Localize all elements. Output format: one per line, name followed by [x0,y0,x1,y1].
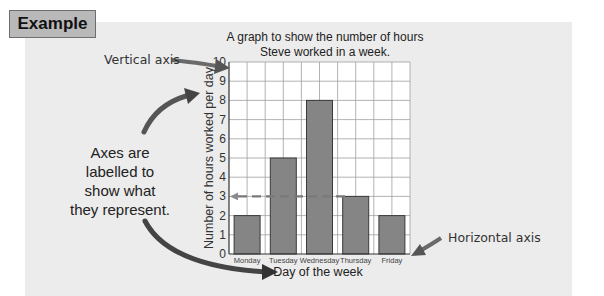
x-tick-labels: MondayTuesdayWednesdayThursdayFriday [234,256,403,265]
axes-labelled-note: Axes are labelled to show what they repr… [50,143,190,219]
x-axis-label: Day of the week [273,265,363,279]
bar-monday [234,216,260,254]
y-tick-label: 3 [219,189,226,203]
y-tick-label: 1 [219,228,226,242]
vertical-axis-annotation: Vertical axis [104,52,180,67]
y-tick-label: 9 [219,74,226,88]
y-tick-label: 8 [219,93,226,107]
x-tick-label: Monday [234,256,261,265]
x-tick-label: Wednesday [300,256,340,265]
curved-arrow-up-head-icon [184,88,200,104]
bar-tuesday [270,158,296,254]
y-tick-label: 5 [219,151,226,165]
bar-friday [379,216,405,254]
y-tick-label: 0 [219,247,226,261]
horizontal-axis-annotation: Horizontal axis [448,230,541,245]
bar-wednesday [307,100,333,254]
y-axis-label: Number of hours worked per day [202,66,216,249]
x-tick-label: Tuesday [269,256,298,265]
y-tick-label: 4 [219,170,226,184]
y-tick-label: 2 [219,209,226,223]
x-tick-label: Thursday [340,256,372,265]
axes-note-line-2: labelled to [50,162,190,181]
curved-arrow-up [144,96,186,132]
y-tick-label: 6 [219,132,226,146]
axes-note-line-4: they represent. [50,200,190,219]
bar-thursday [343,196,369,254]
axes-note-line-1: Axes are [50,143,190,162]
y-tick-label: 7 [219,113,226,127]
axes-note-line-3: show what [50,181,190,200]
x-tick-label: Friday [381,256,402,265]
